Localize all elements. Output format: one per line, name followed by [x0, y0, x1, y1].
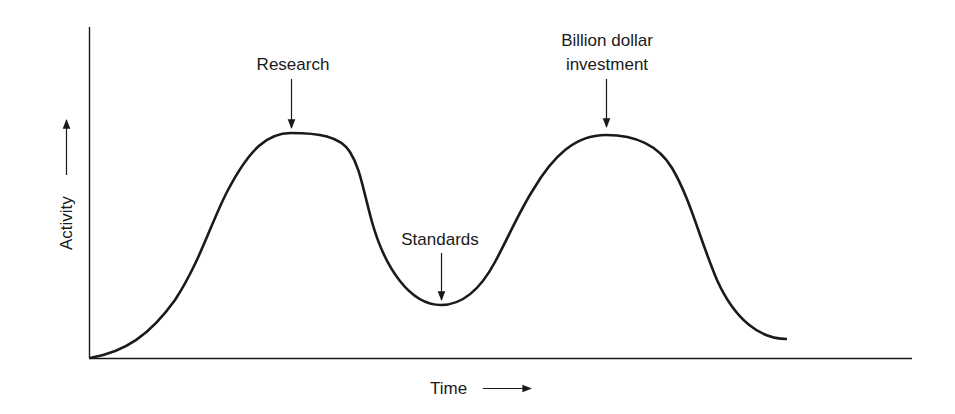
standards-label: Standards [401, 230, 479, 249]
y-axis-label: Activity [57, 196, 76, 250]
investment-label-line1: Billion dollar [561, 31, 653, 50]
research-label: Research [257, 55, 330, 74]
x-axis-label: Time [430, 379, 467, 398]
diagram-canvas: Research Standards Billion dollar invest… [0, 0, 955, 414]
investment-label-line2: investment [566, 55, 648, 74]
